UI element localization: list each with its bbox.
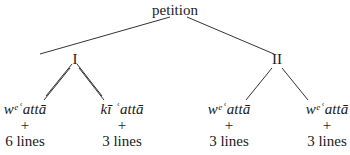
tree-diagram: petition I II wᵉʿattā + 6 lines kī ʿattā… bbox=[0, 0, 350, 155]
tree-edges-lower bbox=[0, 0, 350, 155]
